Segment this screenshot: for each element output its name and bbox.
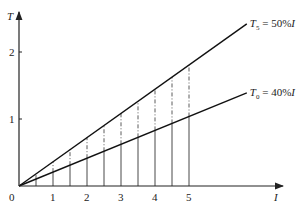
- x-tick-label: 1: [50, 191, 56, 203]
- origin-label: 0: [9, 191, 15, 203]
- x-tick-label: 2: [84, 191, 90, 203]
- series-label-0: T5 = 50%I: [250, 17, 296, 32]
- x-axis-label: I: [273, 191, 279, 203]
- x-tick-label: 3: [118, 191, 124, 203]
- series-line-0: [19, 24, 247, 186]
- series-line-1: [19, 93, 247, 186]
- series-lines: [19, 24, 247, 186]
- y-axis-label: T: [7, 10, 14, 22]
- chart: T I 0 1234512 T5 = 50%IT0 = 40%I: [0, 0, 302, 210]
- y-tick-label: 2: [9, 46, 15, 58]
- x-tick-label: 4: [152, 191, 158, 203]
- y-tick-label: 1: [9, 113, 15, 125]
- series-label-1: T0 = 40%I: [250, 86, 296, 101]
- series-labels: T5 = 50%IT0 = 40%I: [250, 17, 296, 101]
- x-tick-label: 5: [186, 191, 192, 203]
